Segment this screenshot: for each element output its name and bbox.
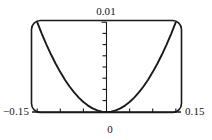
y-axis-ticks bbox=[102, 22, 107, 100]
y-max-label: 0.01 bbox=[96, 6, 116, 17]
x-min-label: −0.15 bbox=[3, 106, 29, 117]
plot-canvas bbox=[0, 0, 212, 140]
x-zero-label: 0 bbox=[107, 124, 113, 135]
plot-figure: 0.01 −0.15 0.15 0 bbox=[0, 0, 212, 140]
x-max-label: 0.15 bbox=[185, 106, 205, 117]
